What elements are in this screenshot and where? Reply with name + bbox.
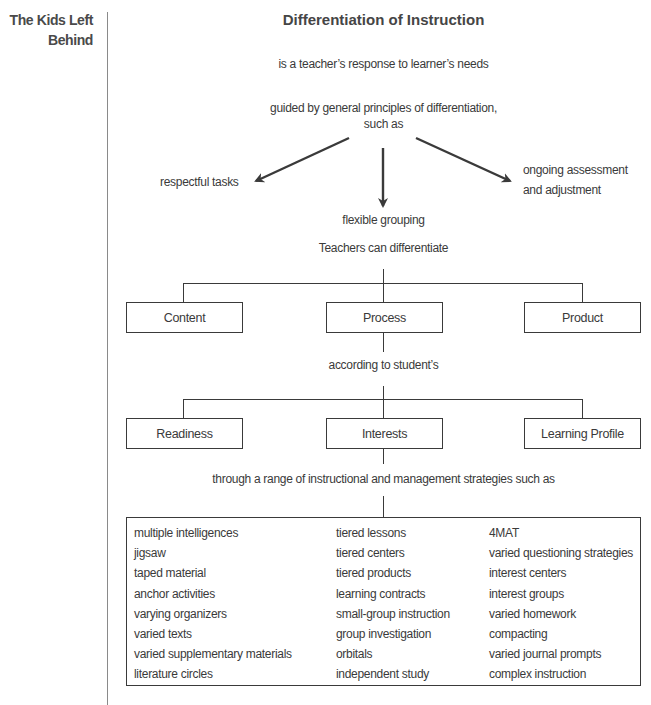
connector <box>383 449 384 464</box>
strategy-item: varied texts <box>134 624 292 644</box>
strategy-item: varied journal prompts <box>489 644 633 664</box>
strategy-item: taped material <box>134 563 292 583</box>
arrow-left-icon <box>256 138 349 181</box>
strategy-item: group investigation <box>336 624 450 644</box>
strategy-item: interest centers <box>489 563 633 583</box>
box-product: Product <box>524 302 641 333</box>
connector <box>383 333 384 352</box>
strategy-item: varying organizers <box>134 604 292 624</box>
strategy-item: tiered products <box>336 563 450 583</box>
box-content: Content <box>126 302 243 333</box>
strategies-column-3: 4MAT varied questioning strategies inter… <box>489 523 633 685</box>
teachers-can-text: Teachers can differentiate <box>126 240 641 257</box>
connector <box>183 283 583 284</box>
strategy-item: 4MAT <box>489 523 633 543</box>
strategy-item: literature circles <box>134 664 292 684</box>
connector <box>582 283 583 302</box>
strategy-item: complex instruction <box>489 664 633 684</box>
box-readiness: Readiness <box>126 418 243 449</box>
strategy-item: compacting <box>489 624 633 644</box>
strategies-column-2: tiered lessons tiered centers tiered pro… <box>336 523 450 685</box>
according-to-text: according to student’s <box>126 357 641 374</box>
connector <box>183 399 184 418</box>
principle-respectful-tasks: respectful tasks <box>160 174 239 191</box>
strategy-item: interest groups <box>489 584 633 604</box>
strategy-item: independent study <box>336 664 450 684</box>
strategy-item: multiple intelligences <box>134 523 292 543</box>
strategy-item: tiered centers <box>336 543 450 563</box>
box-learning-profile: Learning Profile <box>524 418 641 449</box>
connector <box>383 386 384 418</box>
principle-ongoing-assessment-line1: ongoing assessment <box>523 162 628 179</box>
connector <box>383 496 384 518</box>
connector <box>582 399 583 418</box>
strategy-item: varied supplementary materials <box>134 644 292 664</box>
strategy-item: tiered lessons <box>336 523 450 543</box>
connector <box>183 283 184 302</box>
strategies-column-1: multiple intelligences jigsaw taped mate… <box>134 523 292 685</box>
strategy-item: orbitals <box>336 644 450 664</box>
box-interests: Interests <box>326 418 443 449</box>
strategy-item: small-group instruction <box>336 604 450 624</box>
box-process: Process <box>326 302 443 333</box>
strategy-item: learning contracts <box>336 584 450 604</box>
strategies-box: multiple intelligences jigsaw taped mate… <box>126 517 641 686</box>
principle-ongoing-assessment-line2: and adjustment <box>523 182 601 199</box>
through-text: through a range of instructional and man… <box>126 471 641 488</box>
strategy-item: jigsaw <box>134 543 292 563</box>
strategy-item: varied questioning strategies <box>489 543 633 563</box>
arrow-right-icon <box>416 138 510 181</box>
strategy-item: varied homework <box>489 604 633 624</box>
principle-flexible-grouping: flexible grouping <box>126 212 641 229</box>
connector <box>183 399 583 400</box>
connector <box>383 269 384 302</box>
strategy-item: anchor activities <box>134 584 292 604</box>
